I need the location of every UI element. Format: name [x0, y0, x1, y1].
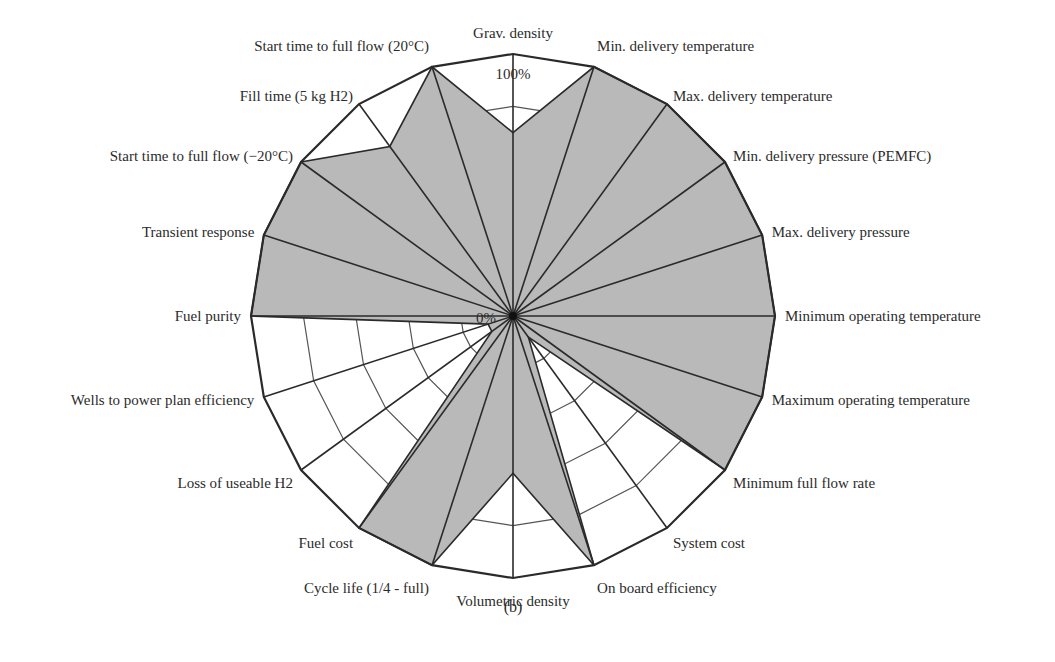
axis-label: Min. delivery pressure (PEMFC) [733, 148, 931, 165]
axis-label: Transient response [142, 224, 255, 240]
axis-label: Fill time (5 kg H2) [240, 88, 353, 105]
axis-label: Wells to power plan efficiency [71, 392, 255, 408]
scale-min-label: 0% [476, 310, 496, 326]
axis-label: On board efficiency [597, 580, 717, 596]
axis-label: Max. delivery pressure [772, 224, 910, 240]
axis-label: System cost [673, 535, 746, 551]
axis-label: Maximum operating temperature [772, 392, 971, 408]
center-point [509, 312, 517, 320]
axis-label: Loss of useable H2 [178, 475, 293, 491]
scale-max-label: 100% [496, 66, 531, 82]
axis-label: Start time to full flow (20°C) [254, 38, 429, 55]
axis-label: Max. delivery temperature [673, 88, 833, 104]
axis-label: Minimum operating temperature [785, 308, 981, 324]
axis-label: Start time to full flow (−20°C) [110, 148, 293, 165]
axis-label: Grav. density [473, 25, 553, 41]
axis-label: Fuel purity [175, 308, 242, 324]
axis-label: Cycle life (1/4 - full) [304, 580, 429, 597]
radar-chart: Grav. densityMin. delivery temperatureMa… [0, 0, 1055, 662]
figure-caption: (b) [504, 598, 523, 616]
axis-label: Minimum full flow rate [733, 475, 875, 491]
axis-label: Fuel cost [299, 535, 354, 551]
axis-label: Min. delivery temperature [597, 38, 754, 54]
